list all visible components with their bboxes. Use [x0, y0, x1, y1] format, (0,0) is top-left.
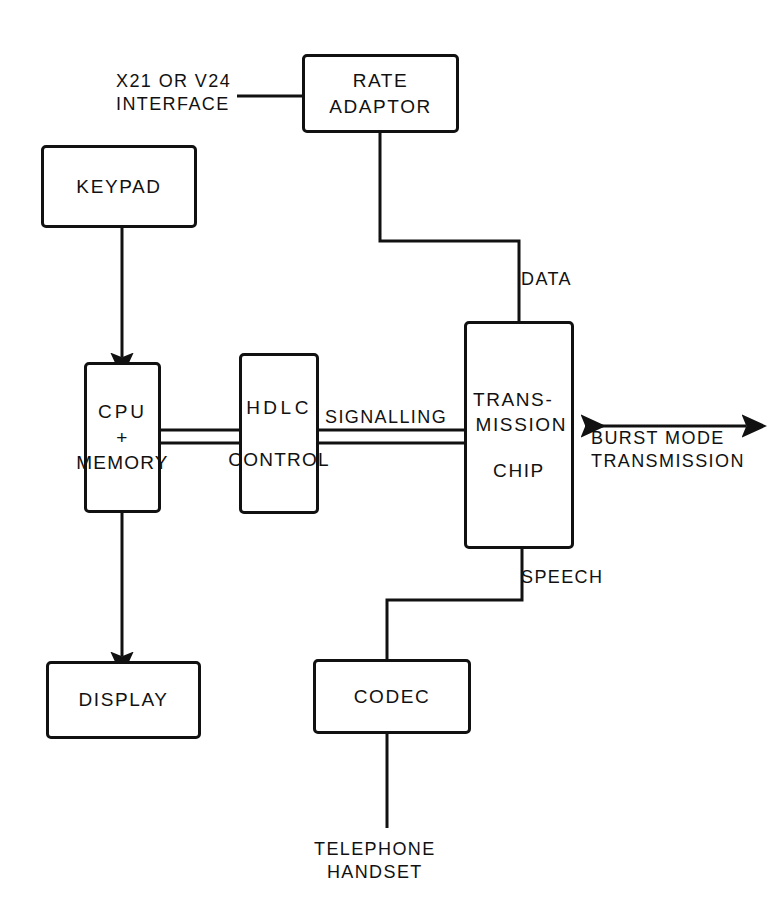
block-rate-adaptor: RATE ADAPTOR: [302, 54, 459, 133]
block-transmission-line-3: CHIP: [493, 458, 545, 483]
block-transmission-line-1: TRANS-: [473, 387, 553, 412]
block-hdlc-control: HDLC CONTROL: [239, 353, 319, 514]
block-cpu-line-2: +: [116, 425, 128, 450]
block-diagram-canvas: RATE ADAPTOR KEYPAD CPU + MEMORY HDLC CO…: [0, 0, 776, 897]
block-transmission-chip: TRANS- MISSION CHIP: [464, 321, 574, 549]
block-cpu-line-1: CPU: [98, 399, 147, 424]
wire-transmission-to-codec-speech: [387, 549, 522, 659]
block-hdlc-line-1: HDLC: [246, 395, 312, 420]
label-telephone-handset-line-1: TELEPHONE: [314, 838, 436, 861]
label-x21-v24-interface: X21 OR V24 INTERFACE: [116, 70, 231, 115]
block-transmission-line-2: MISSION: [476, 412, 567, 437]
label-burst-mode-transmission-line-1: BURST MODE: [591, 427, 745, 450]
block-codec-label: CODEC: [354, 684, 431, 709]
label-signalling: SIGNALLING: [325, 406, 447, 429]
label-x21-v24-interface-line-1: X21 OR V24: [116, 70, 231, 93]
label-telephone-handset: TELEPHONE HANDSET: [314, 838, 436, 883]
block-cpu-line-3: MEMORY: [76, 450, 168, 475]
block-display-label: DISPLAY: [78, 687, 168, 712]
wire-rate-adaptor-to-transmission-data: [380, 133, 519, 321]
label-telephone-handset-line-2: HANDSET: [314, 861, 436, 884]
block-rate-adaptor-line-1: RATE: [353, 68, 409, 93]
block-codec: CODEC: [313, 659, 471, 734]
block-keypad-label: KEYPAD: [76, 174, 161, 199]
block-hdlc-line-2: CONTROL: [228, 447, 329, 472]
block-cpu-memory: CPU + MEMORY: [84, 362, 161, 513]
block-keypad: KEYPAD: [41, 145, 197, 228]
label-data: DATA: [521, 268, 572, 291]
block-rate-adaptor-line-2: ADAPTOR: [329, 94, 432, 119]
label-x21-v24-interface-line-2: INTERFACE: [116, 93, 231, 116]
label-speech: SPEECH: [521, 566, 603, 589]
label-burst-mode-transmission: BURST MODE TRANSMISSION: [591, 427, 745, 472]
label-burst-mode-transmission-line-2: TRANSMISSION: [591, 450, 745, 473]
block-display: DISPLAY: [46, 661, 201, 739]
